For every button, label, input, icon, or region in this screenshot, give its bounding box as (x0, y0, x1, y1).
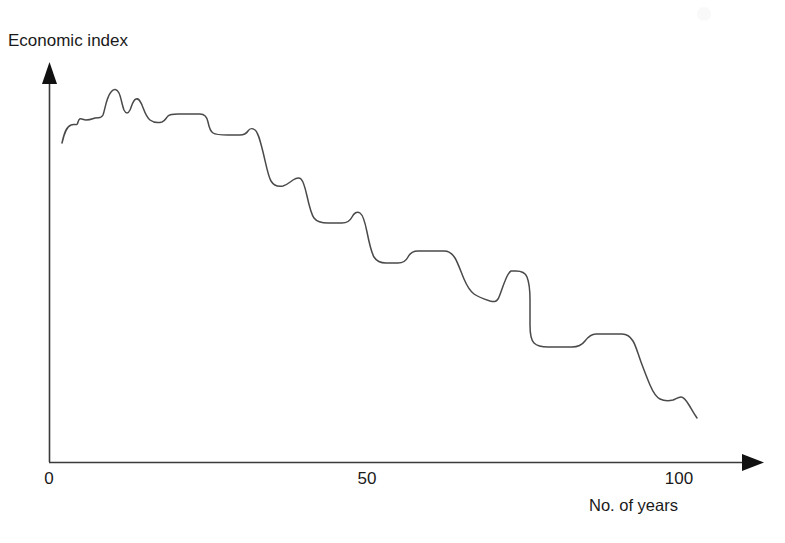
x-tick-label-0: 0 (44, 470, 53, 487)
x-axis-title: No. of years (589, 497, 678, 514)
economic-index-line-chart: Economic index No. of years 0 50 100 (0, 0, 785, 543)
y-axis-arrowhead-icon (42, 62, 57, 84)
chart-plot-area (0, 0, 785, 543)
x-tick-label-100: 100 (665, 470, 693, 487)
y-axis-title: Economic index (8, 32, 128, 49)
x-axis-arrowhead-icon (742, 454, 764, 471)
series-line-economic-index (62, 89, 697, 418)
x-tick-label-50: 50 (358, 470, 377, 487)
